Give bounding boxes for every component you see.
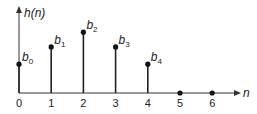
point-label: b0	[22, 50, 34, 66]
tick-label: 5	[177, 97, 183, 109]
tick-label: 0	[16, 97, 22, 109]
y-axis-arrow-icon	[16, 6, 22, 13]
x-axis-arrow-icon	[234, 90, 241, 96]
point-label: b4	[151, 50, 163, 66]
tick-label: 6	[209, 97, 215, 109]
stem-point	[210, 90, 215, 95]
y-axis: h(n)	[16, 6, 45, 93]
stem-point	[16, 62, 21, 67]
stem-point	[49, 44, 54, 49]
stem-point	[113, 44, 118, 49]
tick-labels: 0123456	[16, 97, 215, 109]
tick-label: 4	[145, 97, 151, 109]
point-label: b2	[86, 18, 98, 34]
stem-point	[145, 62, 150, 67]
stem-point	[81, 30, 86, 35]
stem-plot: h(n) n b0b1b2b3b4 0123456	[0, 0, 257, 114]
tick-label: 3	[113, 97, 119, 109]
point-label: b1	[54, 33, 66, 49]
stems: b0b1b2b3b4	[16, 18, 214, 95]
stem-point	[177, 90, 182, 95]
y-axis-label: h(n)	[24, 6, 45, 20]
x-axis-label: n	[243, 86, 250, 100]
point-label: b3	[119, 33, 131, 49]
tick-label: 1	[48, 97, 54, 109]
tick-label: 2	[80, 97, 86, 109]
